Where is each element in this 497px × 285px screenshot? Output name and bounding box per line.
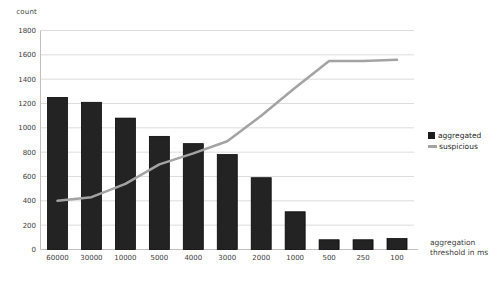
bar: [183, 144, 203, 250]
plot-area: 0200400600800100012001400160018006000030…: [0, 0, 497, 285]
y-axis-title: count: [0, 8, 37, 16]
x-tick-label: 500: [322, 254, 335, 262]
x-axis-title: aggregation threshold in ms: [430, 238, 488, 258]
legend-label-aggregated: aggregated: [438, 131, 481, 140]
bar: [217, 155, 237, 250]
x-tick-label: 3000: [218, 254, 236, 262]
x-tick-label: 100: [390, 254, 403, 262]
x-tick-label: 250: [356, 254, 369, 262]
y-tick-label: 1600: [18, 51, 36, 59]
bar: [319, 240, 339, 250]
x-tick-label: 60000: [46, 254, 68, 262]
x-tick-label: 10000: [114, 254, 136, 262]
bar: [47, 97, 67, 249]
x-tick-label: 2000: [252, 254, 270, 262]
x-tick-label: 30000: [80, 254, 102, 262]
legend-item-suspicious: suspicious: [428, 142, 481, 151]
x-tick-label: 5000: [150, 254, 168, 262]
legend: aggregated suspicious: [428, 131, 481, 153]
bar: [285, 212, 305, 250]
x-axis-title-line2: threshold in ms: [430, 248, 488, 258]
y-tick-label: 200: [23, 222, 36, 230]
bar: [387, 239, 407, 250]
y-tick-label: 1000: [18, 124, 36, 132]
y-tick-label: 0: [32, 246, 36, 254]
y-tick-label: 1800: [18, 27, 36, 35]
y-tick-label: 600: [23, 173, 36, 181]
bar: [149, 136, 169, 249]
y-tick-label: 1400: [18, 76, 36, 84]
line-swatch-icon: [428, 145, 437, 148]
legend-item-aggregated: aggregated: [428, 131, 481, 140]
bar: [251, 178, 271, 250]
x-tick-label: 1000: [286, 254, 304, 262]
bar: [81, 102, 101, 249]
y-tick-label: 1200: [18, 100, 36, 108]
y-tick-label: 800: [23, 149, 36, 157]
chart: 0200400600800100012001400160018006000030…: [0, 0, 497, 285]
y-tick-label: 400: [23, 197, 36, 205]
legend-label-suspicious: suspicious: [439, 142, 478, 151]
x-axis-title-line1: aggregation: [430, 238, 488, 248]
bar-swatch-icon: [428, 132, 435, 139]
bar: [353, 240, 373, 250]
x-tick-label: 4000: [184, 254, 202, 262]
